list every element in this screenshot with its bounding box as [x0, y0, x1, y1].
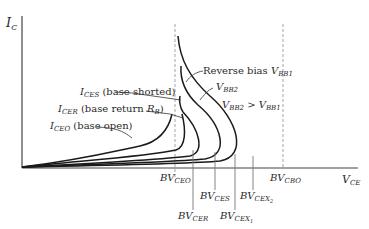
curve-vbb2 — [22, 66, 220, 167]
bvceo-label: BVCEO — [159, 172, 191, 185]
curves — [22, 36, 237, 167]
x-axis-label: VCE — [342, 173, 360, 187]
breakdown-diagram: IC VCE ICES (base shorted) ICER (base re… — [0, 0, 369, 229]
bvcex2-label: BVCEX2 — [239, 190, 273, 204]
vbb1-label: Reverse bias VBB1 — [203, 65, 293, 78]
icer-label: ICER (base return RB) — [57, 103, 164, 116]
bvcer-label: BVCER — [177, 210, 209, 223]
axes — [22, 16, 358, 168]
bvces-label: BVCES — [199, 190, 230, 203]
vbb2-label: VBB2 — [216, 81, 239, 94]
vbb-relation-label: VBB2 > VBB1 — [222, 99, 281, 112]
vbb2-leader — [200, 88, 213, 100]
curve-vbb1 — [22, 36, 237, 167]
bvcex1-label: BVCEX1 — [219, 210, 253, 224]
bvcbo-label: BVCBO — [269, 172, 301, 185]
y-axis-label: IC — [5, 15, 17, 32]
